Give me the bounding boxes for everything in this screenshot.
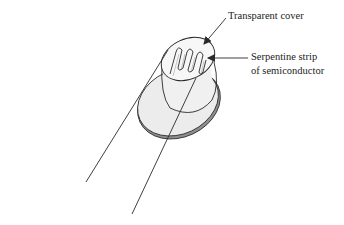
- label-serpentine-strip-line2: of semiconductor: [251, 65, 324, 77]
- label-serpentine-strip-line1: Serpentine strip: [251, 51, 317, 63]
- cover-arrow: [204, 18, 226, 44]
- photocell-diagram: [0, 0, 344, 225]
- label-transparent-cover: Transparent cover: [228, 10, 304, 22]
